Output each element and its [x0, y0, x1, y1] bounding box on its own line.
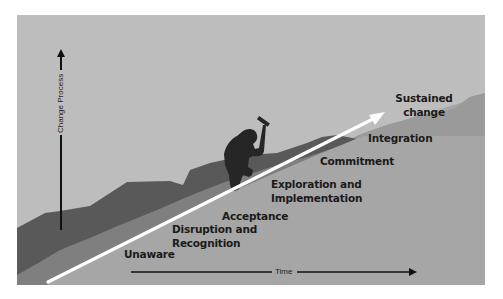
change-process-diagram: Change Process Time Unaware Disruption a… — [17, 15, 485, 285]
stage-disruption-line1: Disruption and — [172, 222, 257, 236]
stage-commitment: Commitment — [320, 154, 394, 168]
stage-disruption-recognition: Disruption and Recognition — [172, 222, 257, 250]
stage-unaware: Unaware — [124, 247, 175, 261]
stage-integration: Integration — [368, 131, 432, 145]
stage-exploration-line2: Implementation — [271, 191, 362, 205]
stage-sustained-line1: Sustained — [389, 91, 459, 105]
y-axis-label: Change Process — [56, 74, 65, 133]
x-axis-label: Time — [275, 267, 292, 276]
stage-acceptance: Acceptance — [222, 209, 288, 223]
stage-sustained-line2: change — [389, 105, 459, 119]
stage-exploration-implementation: Exploration and Implementation — [271, 177, 362, 205]
stage-sustained-change: Sustained change — [389, 91, 459, 119]
stage-exploration-line1: Exploration and — [271, 177, 362, 191]
stage-disruption-line2: Recognition — [172, 236, 257, 250]
